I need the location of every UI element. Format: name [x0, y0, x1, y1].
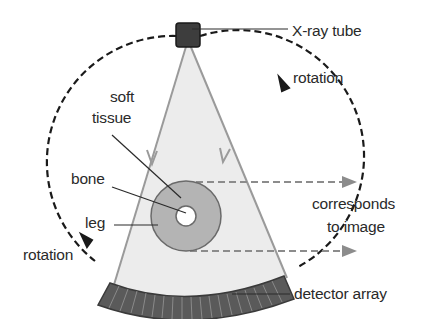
label-corresponds: corresponds — [312, 195, 395, 213]
label-to-image: to image — [327, 218, 385, 236]
xray-tube-icon — [176, 23, 200, 47]
label-leg: leg — [85, 214, 105, 232]
label-bone: bone — [71, 170, 105, 188]
label-soft-tissue-line1: soft — [110, 88, 134, 106]
rotation-arrow-top-icon — [279, 77, 289, 91]
label-detector-array: detector array — [294, 285, 387, 303]
bone-marrow — [176, 206, 196, 226]
ct-scan-diagram — [0, 0, 427, 319]
label-rotation-top: rotation — [293, 69, 343, 87]
rotation-arrow-bottom-icon — [81, 234, 92, 247]
xray-beam — [113, 40, 287, 297]
label-xray-tube: X-ray tube — [292, 22, 362, 40]
leg-cross-section — [151, 181, 221, 251]
label-soft-tissue-line2: tissue — [92, 109, 131, 127]
label-rotation-bottom: rotation — [23, 246, 73, 264]
